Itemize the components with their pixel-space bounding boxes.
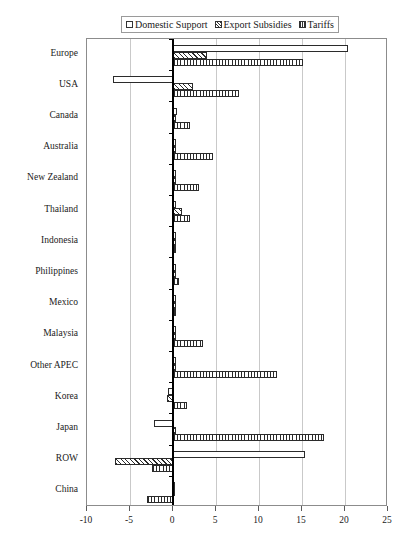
x-tick-label: 15 <box>281 515 321 526</box>
category-tick <box>169 351 173 352</box>
category-tick <box>169 289 173 290</box>
bar-domestic-support-japan <box>154 420 173 427</box>
y-label-philippines: Philippines <box>0 266 78 277</box>
x-tick-label: -10 <box>66 515 106 526</box>
y-label-canada: Canada <box>0 110 78 121</box>
bar-tariffs-europe <box>173 59 303 66</box>
y-label-row: ROW <box>0 453 78 464</box>
y-label-china: China <box>0 484 78 495</box>
bar-tariffs-row <box>152 465 174 472</box>
x-tick-label: 20 <box>324 515 364 526</box>
bar-domestic-support-row <box>173 451 305 458</box>
chart-legend: Domestic Support Export Subsidies Tariff… <box>121 16 339 33</box>
category-tick <box>169 382 173 383</box>
legend-entry-tariffs: Tariffs <box>299 19 334 30</box>
category-tick <box>169 39 173 40</box>
horizontal-bar-chart: Domestic Support Export Subsidies Tariff… <box>0 0 402 538</box>
bar-domestic-support-europe <box>173 45 348 52</box>
category-tick <box>169 476 173 477</box>
x-tick <box>215 506 216 511</box>
legend-swatch-tariffs-icon <box>299 21 306 28</box>
x-tick <box>344 506 345 511</box>
plot-area <box>86 38 387 506</box>
bar-tariffs-korea <box>173 402 187 409</box>
bar-tariffs-usa <box>173 90 239 97</box>
category-tick <box>169 445 173 446</box>
legend-entry-domestic-support: Domestic Support <box>126 19 208 30</box>
x-tick <box>129 506 130 511</box>
gridline <box>130 39 131 505</box>
y-label-europe: Europe <box>0 48 78 59</box>
legend-label-export-subsidies: Export Subsidies <box>224 19 292 30</box>
bar-export-subsidies-row <box>115 458 173 465</box>
y-label-japan: Japan <box>0 422 78 433</box>
category-tick <box>169 413 173 414</box>
legend-swatch-domestic-support-icon <box>126 21 133 28</box>
y-label-thailand: Thailand <box>0 204 78 215</box>
category-tick <box>169 320 173 321</box>
x-tick <box>172 506 173 511</box>
category-tick <box>169 133 173 134</box>
category-tick <box>169 101 173 102</box>
x-tick <box>86 506 87 511</box>
category-tick <box>169 164 173 165</box>
category-tick <box>169 257 173 258</box>
y-label-usa: USA <box>0 79 78 90</box>
legend-label-domestic-support: Domestic Support <box>135 19 208 30</box>
bar-tariffs-malaysia <box>173 340 203 347</box>
bar-tariffs-australia <box>173 153 213 160</box>
bar-export-subsidies-usa <box>173 83 193 90</box>
x-tick-label: -5 <box>109 515 149 526</box>
bar-tariffs-new-zealand <box>173 184 199 191</box>
category-tick <box>169 226 173 227</box>
zero-axis-line <box>172 39 174 505</box>
y-label-korea: Korea <box>0 391 78 402</box>
bar-tariffs-japan <box>173 434 324 441</box>
bar-domestic-support-usa <box>113 76 173 83</box>
legend-entry-export-subsidies: Export Subsidies <box>215 19 292 30</box>
bar-tariffs-thailand <box>173 215 190 222</box>
category-tick <box>169 195 173 196</box>
y-label-indonesia: Indonesia <box>0 235 78 246</box>
x-tick <box>387 506 388 511</box>
bar-tariffs-canada <box>173 122 190 129</box>
x-tick-label: 0 <box>152 515 192 526</box>
y-label-mexico: Mexico <box>0 297 78 308</box>
y-label-malaysia: Malaysia <box>0 328 78 339</box>
y-label-other-apec: Other APEC <box>0 360 78 371</box>
x-tick <box>258 506 259 511</box>
category-tick <box>169 70 173 71</box>
legend-swatch-export-subsidies-icon <box>215 21 222 28</box>
y-label-new-zealand: New Zealand <box>0 172 78 183</box>
x-tick-label: 10 <box>238 515 278 526</box>
legend-label-tariffs: Tariffs <box>308 19 334 30</box>
x-tick-label: 25 <box>367 515 402 526</box>
x-tick-label: 5 <box>195 515 235 526</box>
x-tick <box>301 506 302 511</box>
bar-export-subsidies-thailand <box>173 208 182 215</box>
bar-tariffs-other-apec <box>173 371 277 378</box>
bar-export-subsidies-europe <box>173 52 207 59</box>
gridline <box>345 39 346 505</box>
y-label-australia: Australia <box>0 141 78 152</box>
bar-tariffs-china <box>147 496 173 503</box>
